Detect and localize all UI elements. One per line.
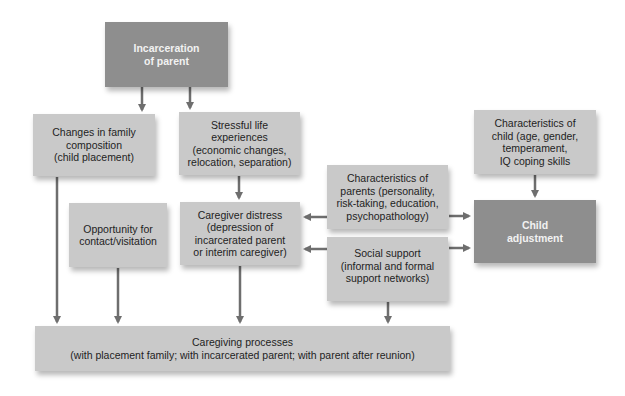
node-label-line: contact/visitation [79, 235, 157, 248]
node-label-line: support networks) [346, 272, 429, 285]
node-caregiving-processes: Caregiving processes (with placement fam… [35, 326, 450, 371]
node-label-line: relocation, separation) [188, 156, 292, 169]
node-label-line: IQ coping skills [500, 155, 571, 168]
node-label-line: (child placement) [54, 151, 134, 164]
node-label-line: adjustment [507, 232, 563, 245]
node-label-line: Characteristics of [494, 117, 575, 130]
node-label-line: child (age, gender, [492, 130, 578, 143]
node-label-line: of parent [144, 55, 189, 68]
node-label-line: Opportunity for [83, 223, 152, 236]
node-characteristics-of-parents: Characteristics of parents (personality,… [327, 165, 448, 229]
node-label-line: or interim caregiver) [193, 246, 286, 259]
node-label-line: (depression of [207, 221, 274, 234]
node-label-line: Child [522, 219, 548, 232]
node-social-support: Social support (informal and formal supp… [327, 237, 448, 301]
node-label-line: Caregiver distress [198, 209, 283, 222]
node-label-line: experiences [211, 131, 268, 144]
node-label-line: Characteristics of [347, 172, 428, 185]
node-label-line: parents (personality, [340, 185, 434, 198]
node-child-adjustment: Child adjustment [474, 200, 596, 263]
node-incarceration-of-parent: Incarceration of parent [105, 22, 228, 87]
node-label-line: incarcerated parent [195, 234, 285, 247]
node-label-line: Stressful life [211, 119, 268, 132]
node-label-line: psychopathology) [346, 210, 428, 223]
node-label-line: Changes in family [52, 126, 135, 139]
node-stressful-life-experiences: Stressful life experiences (economic cha… [179, 112, 300, 175]
node-label-line: composition [66, 139, 122, 152]
node-label-line: Social support [354, 247, 421, 260]
node-characteristics-of-child: Characteristics of child (age, gender, t… [474, 110, 596, 174]
node-caregiver-distress: Caregiver distress (depression of incarc… [180, 202, 300, 265]
node-changes-in-family-composition: Changes in family composition (child pla… [33, 114, 155, 176]
node-label-line: Incarceration [134, 42, 200, 55]
node-label-line: Caregiving processes [192, 336, 293, 349]
node-opportunity-for-contact: Opportunity for contact/visitation [69, 203, 167, 267]
node-label-line: (economic changes, [193, 144, 287, 157]
node-label-line: (with placement family; with incarcerate… [70, 349, 414, 362]
node-label-line: risk-taking, education, [336, 197, 438, 210]
node-label-line: temperament, [503, 142, 568, 155]
node-label-line: (informal and formal [341, 260, 434, 273]
